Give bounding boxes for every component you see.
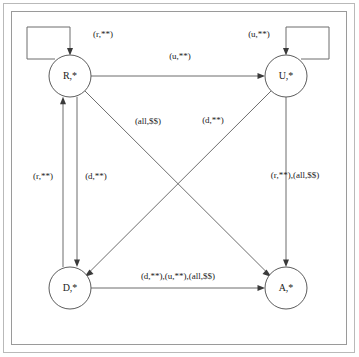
node-D[interactable]: D,* — [49, 267, 91, 309]
edge-D-to-A — [91, 285, 265, 291]
arrowhead-into-A-from-U — [283, 260, 289, 268]
edge-U-self — [283, 27, 329, 59]
edge-label-U-self: (u,**) — [248, 29, 270, 39]
arrowhead-into-U-from-R — [258, 73, 266, 79]
node-U[interactable]: U,* — [265, 55, 307, 97]
edge-D-to-R — [60, 97, 66, 267]
edge-R-to-A-line — [85, 91, 267, 272]
arrowhead-into-U-self — [283, 48, 289, 56]
state-graph-canvas: R,* U,* D,* A,* (r,**) (u,**) (u,**) (d,… — [0, 0, 359, 357]
edge-label-D-to-A: (d,**),(u,**),(all,$$) — [141, 271, 215, 281]
node-A[interactable]: A,* — [265, 267, 307, 309]
node-A-label: A,* — [279, 282, 294, 293]
node-R[interactable]: R,* — [49, 55, 91, 97]
edge-label-R-self: (r,**) — [93, 29, 113, 39]
edge-R-self — [27, 27, 73, 59]
edge-label-R-to-U: (u,**) — [169, 51, 191, 61]
arrowhead-into-R-self — [67, 48, 73, 56]
node-R-label: R,* — [63, 70, 77, 81]
node-U-label: U,* — [279, 70, 294, 81]
state-diagram-figure: R,* U,* D,* A,* (r,**) (u,**) (u,**) (d,… — [0, 0, 359, 357]
arrowhead-into-D-from-R — [74, 260, 80, 268]
edge-label-U-to-D: (d,**) — [202, 115, 224, 125]
edge-label-U-to-A: (r,**),(all,$$) — [271, 170, 319, 180]
arrowhead-into-R-from-D — [60, 97, 66, 105]
edge-label-R-to-D: (d,**) — [85, 171, 107, 181]
edge-R-to-U — [91, 73, 265, 79]
edge-label-D-to-R: (r,**) — [33, 171, 53, 181]
edge-R-to-D — [74, 97, 80, 267]
edge-label-R-to-A: (all,$$) — [135, 116, 161, 126]
node-D-label: D,* — [63, 282, 78, 293]
edge-U-self-path — [286, 27, 329, 59]
edge-U-to-D-line — [90, 91, 272, 272]
edge-R-self-path — [27, 27, 70, 59]
edge-U-to-A — [283, 97, 289, 267]
arrowhead-into-A-from-D — [258, 285, 266, 291]
